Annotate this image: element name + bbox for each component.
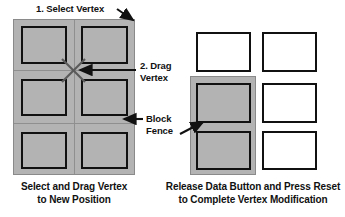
right-caption: Release Data Button and Press Reset to C… <box>165 180 341 206</box>
block-r3c1[interactable] <box>21 132 67 169</box>
block-r2c2[interactable] <box>81 79 128 116</box>
annotation-block-fence: Block Fence <box>146 113 173 136</box>
block-r1c2[interactable] <box>81 26 128 64</box>
right-block-r3c2[interactable] <box>262 131 317 170</box>
right-block-r1c2[interactable] <box>262 32 317 72</box>
fence-seam-horizontal <box>14 123 134 124</box>
fence-seam-horizontal <box>14 70 134 71</box>
right-block-r3c1[interactable] <box>196 131 251 170</box>
left-block-fence[interactable] <box>13 19 135 175</box>
right-block-r1c1[interactable] <box>196 32 251 72</box>
annotation-drag-vertex: 2. Drag Vertex <box>140 60 172 83</box>
block-r2c1[interactable] <box>21 79 67 116</box>
figure-canvas: 1. Select Vertex 2. Drag Vertex Block Fe… <box>0 0 345 217</box>
fence-seam-vertical <box>74 20 75 174</box>
annotation-select-vertex: 1. Select Vertex <box>36 3 104 15</box>
right-block-r2c2[interactable] <box>262 83 317 123</box>
right-block-r2c1[interactable] <box>196 83 251 123</box>
block-r1c1[interactable] <box>21 26 67 64</box>
left-caption: Select and Drag Vertex to New Position <box>4 180 144 206</box>
block-r3c2[interactable] <box>81 132 128 169</box>
